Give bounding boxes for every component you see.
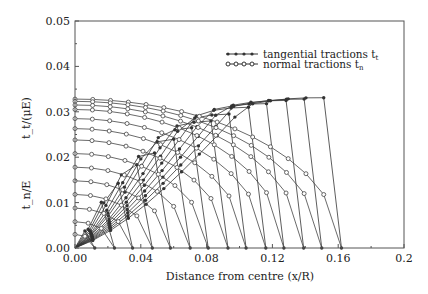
- x-tick-label: 0.12: [260, 252, 285, 265]
- y-tick-label: 0.03: [46, 106, 71, 119]
- y-axis: 0.000.010.020.030.040.05: [46, 15, 80, 255]
- x-tick-label: 0.08: [194, 252, 219, 265]
- plot-lines: [73, 96, 343, 250]
- y-axis-label-bottom: t_n/E: [20, 181, 33, 210]
- y-tick-label: 0.05: [46, 15, 71, 28]
- y-tick-label: 0.04: [46, 60, 71, 73]
- legend: tangential tractions tt normal tractions…: [226, 48, 378, 72]
- legend-entry-normal: normal tractions tn: [226, 58, 364, 72]
- y-tick-label: 0.02: [46, 151, 71, 164]
- x-axis-label: Distance from centre (x/R): [166, 270, 314, 283]
- y-tick-label: 0.01: [46, 197, 71, 210]
- x-tick-label: 0.04: [129, 252, 154, 265]
- y-tick-label: 0.00: [46, 242, 71, 255]
- legend-label-normal: normal tractions tn: [263, 58, 364, 72]
- x-tick-label: 0.16: [326, 252, 351, 265]
- traction-chart: 0.000.040.080.120.160.2 0.000.010.020.03…: [0, 0, 428, 294]
- x-tick-label: 0.2: [395, 252, 413, 265]
- y-axis-label-top: t_t/(μE): [20, 97, 33, 139]
